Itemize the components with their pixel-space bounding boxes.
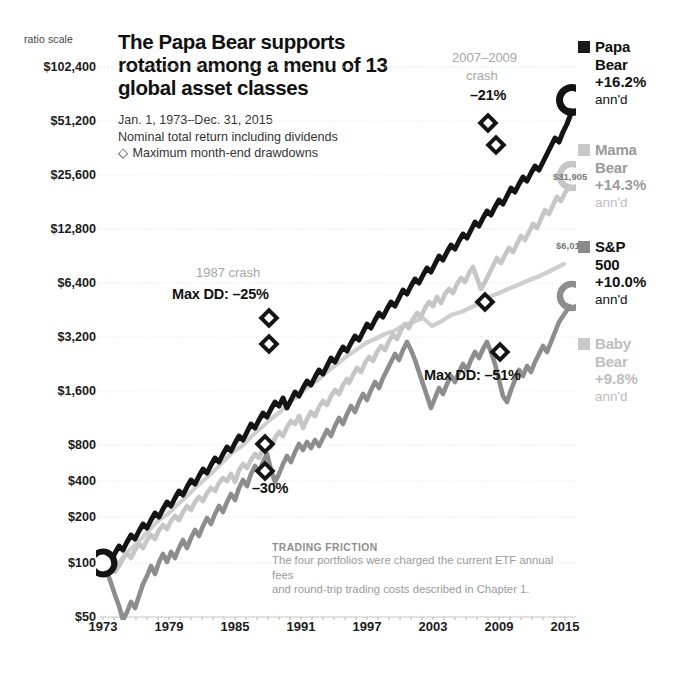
y-tick-label: $400 xyxy=(4,474,96,488)
legend-label-papa-bear-line1: Papa xyxy=(595,38,630,56)
x-tick-label: 1991 xyxy=(287,619,316,634)
legend-annualized-mama-bear: ann'd xyxy=(595,194,691,211)
legend-swatch-sp500 xyxy=(578,241,590,253)
legend-swatch-baby-bear xyxy=(578,338,590,350)
plot-area xyxy=(96,50,576,620)
annotation-max-dd-papa: Max DD: –25% xyxy=(172,286,269,302)
x-tick-label: 1997 xyxy=(353,619,382,634)
trading-friction-note: TRADING FRICTION The four portfolios wer… xyxy=(272,542,572,597)
y-tick-label: $25,600 xyxy=(4,168,96,182)
legend-return-sp500: +10.0% xyxy=(595,273,691,291)
legend-label-sp500-line1: S&P xyxy=(595,238,625,256)
annotation-mama-drawdown: –30% xyxy=(252,480,288,496)
annotation-max-dd-sp500: Max DD: –51% xyxy=(424,367,521,383)
legend-return-papa-bear: +16.2% xyxy=(595,73,691,91)
legend-label-baby-bear-line2: Bear xyxy=(595,353,691,371)
legend-item-papa-bear[interactable]: Papa Bear +16.2% ann'd xyxy=(578,38,691,108)
annotation-2007-2009-crash-line2: crash xyxy=(466,68,498,83)
trading-friction-line1: The four portfolios were charged the cur… xyxy=(272,553,572,582)
drawdown-markers xyxy=(254,112,510,481)
x-tick-label: 2015 xyxy=(551,619,580,634)
x-tick-label: 1985 xyxy=(221,619,250,634)
legend-swatch-papa-bear xyxy=(578,41,590,53)
trading-friction-heading: TRADING FRICTION xyxy=(272,542,572,553)
legend-label-sp500-line2: 500 xyxy=(595,256,691,274)
x-tick-label: 2003 xyxy=(419,619,448,634)
legend-item-baby-bear[interactable]: Baby Bear +9.8% ann'd xyxy=(578,335,691,405)
legend-annualized-papa-bear: ann'd xyxy=(595,91,691,108)
annotation-1987-crash: 1987 crash xyxy=(196,265,260,280)
y-tick-label: $800 xyxy=(4,438,96,452)
annotation-2007-2009-crash-line1: 2007–2009 xyxy=(452,50,517,65)
y-tick-label: $51,200 xyxy=(4,114,96,128)
legend-return-baby-bear: +9.8% xyxy=(595,370,691,388)
x-tick-label: 2009 xyxy=(485,619,514,634)
chart-svg xyxy=(96,50,576,620)
x-tick-label: 1973 xyxy=(89,619,118,634)
y-tick-label: $100 xyxy=(4,556,96,570)
legend-label-mama-bear-line2: Bear xyxy=(595,159,691,177)
trading-friction-line2: and round-trip trading costs described i… xyxy=(272,582,572,597)
legend-item-sp500[interactable]: S&P 500 +10.0% ann'd xyxy=(578,238,691,308)
y-tick-label: $200 xyxy=(4,510,96,524)
gridlines xyxy=(96,67,576,617)
y-tick-label: $6,400 xyxy=(4,276,96,290)
series-line-papa-bear xyxy=(103,104,572,563)
y-axis: $102,400 $51,200 $25,600 $12,800 $6,400 … xyxy=(0,0,96,674)
x-tick-label: 1979 xyxy=(155,619,184,634)
x-axis: 1973 1979 1985 1991 1997 2003 2009 2015 xyxy=(0,619,691,645)
legend-label-baby-bear-line1: Baby xyxy=(595,335,631,353)
y-tick-label: $3,200 xyxy=(4,330,96,344)
annotation-papa-2008-drawdown: –21% xyxy=(470,87,506,103)
y-tick-label: $102,400 xyxy=(4,60,96,74)
legend-annualized-baby-bear: ann'd xyxy=(595,388,691,405)
legend-annualized-sp500: ann'd xyxy=(595,291,691,308)
y-tick-label: $1,600 xyxy=(4,384,96,398)
legend-item-mama-bear[interactable]: Mama Bear +14.3% ann'd xyxy=(578,141,691,211)
legend-label-papa-bear-line2: Bear xyxy=(595,56,691,74)
legend-label-mama-bear-line1: Mama xyxy=(595,141,637,159)
end-marker-sp500 xyxy=(560,284,576,308)
y-tick-label: $12,800 xyxy=(4,222,96,236)
legend-swatch-mama-bear xyxy=(578,144,590,156)
legend-return-mama-bear: +14.3% xyxy=(595,176,691,194)
